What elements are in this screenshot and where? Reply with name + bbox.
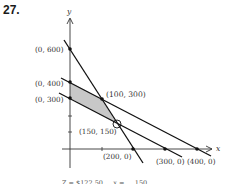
label-200-0: (200, 0) <box>103 152 132 161</box>
label-0-400: (0, 400) <box>35 79 64 88</box>
label-300-0: (300, 0) <box>156 157 185 166</box>
y-axis-label: y <box>66 7 72 16</box>
problem-number: 27. <box>3 3 20 17</box>
label-100-300: (100, 300) <box>106 90 146 99</box>
label-150-150: (150, 150) <box>79 127 117 136</box>
label-0-300: (0, 300) <box>35 95 64 104</box>
x-axis-label: x <box>216 144 221 153</box>
point-300-0 <box>163 147 167 151</box>
x-axis <box>62 146 212 152</box>
point-0-400 <box>68 80 72 84</box>
label-400-0: (400, 0) <box>187 157 216 166</box>
point-0-600 <box>68 47 72 51</box>
linear-programming-figure: 27. y x (0, 600) (0, 4 <box>0 0 227 184</box>
label-0-600: (0, 600) <box>35 45 64 54</box>
point-400-0 <box>195 147 199 151</box>
point-200-0 <box>131 147 135 151</box>
graph: y x (0, 600) (0, 400) (0, 300) (100, 300… <box>0 0 227 184</box>
point-0-300 <box>68 96 72 100</box>
caption: Z = $122.50 ... x = ... 150 ... <box>62 177 227 184</box>
point-100-300 <box>100 97 104 101</box>
